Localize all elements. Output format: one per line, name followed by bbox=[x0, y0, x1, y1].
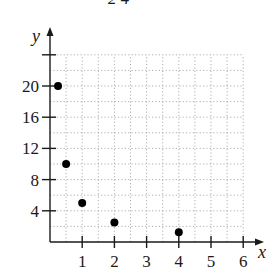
data-point bbox=[175, 228, 183, 236]
y-ticks: 48121620 bbox=[22, 55, 56, 221]
x-tick-label: 3 bbox=[142, 252, 151, 271]
top-partial-text: 2 4 bbox=[108, 0, 130, 8]
x-tick-label: 2 bbox=[110, 252, 119, 271]
data-point bbox=[54, 82, 62, 90]
data-point bbox=[62, 160, 70, 168]
x-axis-label: x bbox=[257, 242, 266, 262]
x-tick-label: 6 bbox=[239, 252, 248, 271]
y-tick-label: 16 bbox=[22, 108, 39, 127]
y-tick-label: 20 bbox=[22, 77, 39, 96]
x-tick-label: 5 bbox=[207, 252, 216, 271]
y-axis-label: y bbox=[30, 26, 40, 46]
y-tick-label: 8 bbox=[31, 171, 40, 190]
y-tick-label: 4 bbox=[31, 202, 40, 221]
data-points bbox=[54, 82, 183, 236]
data-point bbox=[110, 219, 118, 227]
x-tick-label: 4 bbox=[175, 252, 184, 271]
y-tick-label: 12 bbox=[22, 139, 39, 158]
grid bbox=[50, 55, 243, 242]
axes bbox=[47, 27, 265, 246]
x-tick-label: 1 bbox=[78, 252, 87, 271]
data-point bbox=[78, 199, 86, 207]
y-axis-arrow-icon bbox=[47, 27, 54, 36]
scatter-chart: 2 4 x y 123456 48121620 bbox=[0, 0, 272, 280]
